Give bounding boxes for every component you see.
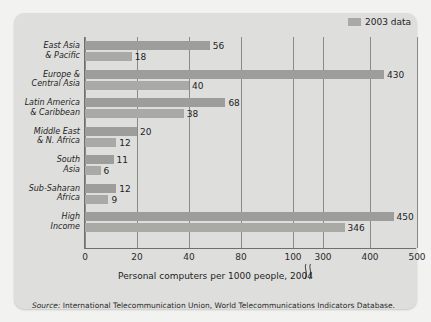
bar-value-label: 20 xyxy=(140,128,151,137)
bar-2004 xyxy=(85,98,225,107)
bar-2003-data xyxy=(85,223,345,232)
bar-group: Latin America& Caribbean6838 xyxy=(85,98,416,123)
bar-value-label: 18 xyxy=(135,53,146,62)
bar-value-label: 9 xyxy=(111,196,117,205)
bar-2003-data xyxy=(85,52,132,61)
x-tick-label-500: 500 xyxy=(408,252,425,262)
x-tick-label-40: 40 xyxy=(183,252,194,262)
legend-swatch-2003 xyxy=(348,18,361,26)
bar-2003-data xyxy=(85,81,189,90)
category-label: Europe &Central Asia xyxy=(14,70,85,89)
bar-2004 xyxy=(85,155,114,164)
source-note: Source: International Telecommunication … xyxy=(32,301,395,310)
bar-group: Sub-SaharanAfrica129 xyxy=(85,184,416,209)
chart-panel: 2003 data East Asia& Pacific5618Europe &… xyxy=(14,13,417,309)
bar-2004 xyxy=(85,184,116,193)
bar-value-label: 38 xyxy=(187,110,198,119)
legend-label-2003: 2003 data xyxy=(365,17,411,27)
bar-value-label: 68 xyxy=(228,99,239,108)
x-tick-label-20: 20 xyxy=(131,252,142,262)
category-label-line: Middle East xyxy=(14,127,80,137)
category-label-line: & Caribbean xyxy=(14,108,80,118)
bar-2004 xyxy=(85,212,394,221)
bar-2004 xyxy=(85,70,384,79)
plot-area: East Asia& Pacific5618Europe &Central As… xyxy=(84,37,416,249)
bar-value-label: 40 xyxy=(192,82,203,91)
bar-value-label: 450 xyxy=(397,213,414,222)
bar-group: SouthAsia116 xyxy=(85,155,416,180)
bar-2003-data xyxy=(85,195,108,204)
x-tick-label-0: 0 xyxy=(82,252,88,262)
x-tick-label-300: 300 xyxy=(314,252,331,262)
bar-2003-data xyxy=(85,138,116,147)
category-label-line: East Asia xyxy=(14,41,80,51)
category-label-line: & N. Africa xyxy=(14,136,80,146)
bar-value-label: 430 xyxy=(387,71,404,80)
category-label-line: Sub-Saharan xyxy=(14,184,80,194)
category-label-line: High xyxy=(14,212,80,222)
category-label-line: Asia xyxy=(14,165,80,175)
category-label-line: Africa xyxy=(14,193,80,203)
bar-value-label: 12 xyxy=(119,185,130,194)
bar-2003-data xyxy=(85,166,101,175)
chart-legend: 2003 data xyxy=(348,17,411,27)
bar-group: Middle East& N. Africa2012 xyxy=(85,127,416,152)
category-label: Middle East& N. Africa xyxy=(14,127,85,146)
bar-value-label: 11 xyxy=(117,156,128,165)
category-label-line: & Pacific xyxy=(14,51,80,61)
category-label-line: Income xyxy=(14,222,80,232)
category-label-line: Central Asia xyxy=(14,79,80,89)
bar-2003-data xyxy=(85,109,184,118)
category-label: Latin America& Caribbean xyxy=(14,98,85,117)
bar-2004 xyxy=(85,41,210,50)
source-text: International Telecommunication Union, W… xyxy=(60,301,394,310)
bar-value-label: 346 xyxy=(348,224,365,233)
source-prefix: Source: xyxy=(32,301,60,310)
x-tick-label-100: 100 xyxy=(284,252,301,262)
x-axis-title: Personal computers per 1000 people, 2004 xyxy=(14,271,417,281)
category-label: Sub-SaharanAfrica xyxy=(14,184,85,203)
bar-2004 xyxy=(85,127,137,136)
bar-group: HighIncome450346 xyxy=(85,212,416,237)
bar-group: East Asia& Pacific5618 xyxy=(85,41,416,66)
gridline-500 xyxy=(417,37,418,248)
bar-group: Europe &Central Asia43040 xyxy=(85,70,416,95)
category-label: SouthAsia xyxy=(14,155,85,174)
category-label: East Asia& Pacific xyxy=(14,41,85,60)
category-label: HighIncome xyxy=(14,212,85,231)
category-label-line: Europe & xyxy=(14,70,80,80)
bar-value-label: 12 xyxy=(119,139,130,148)
x-tick-label-400: 400 xyxy=(361,252,378,262)
category-label-line: Latin America xyxy=(14,98,80,108)
bar-value-label: 56 xyxy=(213,42,224,51)
category-label-line: South xyxy=(14,155,80,165)
x-tick-label-80: 80 xyxy=(235,252,246,262)
bar-value-label: 6 xyxy=(104,167,110,176)
